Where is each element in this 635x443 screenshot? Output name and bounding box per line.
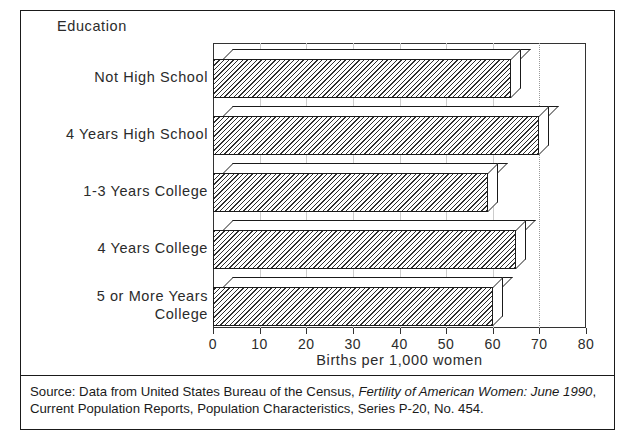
bar-3 (213, 163, 498, 212)
x-axis-title: Births per 1,000 women (213, 352, 586, 368)
x-tick-label-30: 30 (345, 336, 362, 352)
x-tick-80 (586, 328, 587, 334)
x-tick-label-80: 80 (578, 336, 595, 352)
bar-2 (213, 106, 549, 155)
bar-front-face (213, 59, 511, 98)
x-tick-label-40: 40 (391, 336, 408, 352)
plot-border-right (585, 43, 586, 328)
bar-top-face (223, 277, 513, 287)
bar-side-face (488, 163, 498, 212)
bar-front-face (213, 116, 539, 155)
x-tick-label-10: 10 (251, 336, 268, 352)
category-label-line: 4 Years College (30, 239, 208, 257)
x-tick-label-20: 20 (298, 336, 315, 352)
category-label-line: 4 Years High School (30, 125, 208, 143)
category-label-2: 4 Years High School (30, 125, 208, 143)
category-label-3: 1-3 Years College (30, 182, 208, 200)
x-tick-label-70: 70 (531, 336, 548, 352)
source-line2: Current Population Reports, Population C… (30, 401, 484, 416)
figure-container: Education Not High School4 Years High Sc… (0, 0, 635, 443)
bar-4 (213, 220, 526, 269)
category-label-line: 5 or More Years (30, 287, 208, 305)
bar-front-face (213, 230, 516, 269)
x-tick-label-0: 0 (209, 336, 217, 352)
x-tick-60 (493, 328, 494, 334)
gridline-70 (539, 43, 540, 328)
plot-area (213, 43, 586, 328)
category-label-line: Not High School (30, 68, 208, 86)
category-label-column: Not High School4 Years High School1-3 Ye… (30, 46, 208, 328)
bar-5 (213, 277, 503, 326)
x-tick-70 (539, 328, 540, 334)
x-tick-40 (400, 328, 401, 334)
category-label-line: 1-3 Years College (30, 182, 208, 200)
source-line1-suffix: , (592, 384, 596, 399)
source-line1-prefix: Source: Data from United States Bureau o… (30, 384, 358, 399)
bar-side-face (493, 277, 503, 326)
x-tick-label-60: 60 (484, 336, 501, 352)
x-tick-30 (353, 328, 354, 334)
x-tick-0 (213, 328, 214, 334)
bar-front-face (213, 173, 488, 212)
bar-top-face (223, 220, 536, 230)
source-divider (20, 375, 615, 376)
category-label-1: Not High School (30, 68, 208, 86)
category-label-4: 4 Years College (30, 239, 208, 257)
source-publication-title: Fertility of American Women: June 1990 (358, 384, 592, 399)
bar-top-face (223, 49, 531, 59)
x-tick-10 (260, 328, 261, 334)
x-tick-label-50: 50 (438, 336, 455, 352)
x-tick-20 (306, 328, 307, 334)
bar-front-face (213, 287, 493, 326)
bar-side-face (539, 106, 549, 155)
source-note: Source: Data from United States Bureau o… (30, 383, 610, 418)
x-tick-50 (446, 328, 447, 334)
bar-top-face (223, 163, 508, 173)
y-axis-group-title: Education (57, 18, 127, 34)
bar-1 (213, 49, 521, 98)
bar-side-face (511, 49, 521, 98)
bar-top-face (223, 106, 559, 116)
category-label-line: College (30, 305, 208, 323)
bar-side-face (516, 220, 526, 269)
category-label-5: 5 or More YearsCollege (30, 287, 208, 323)
